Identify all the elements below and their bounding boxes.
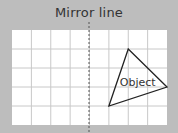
object-label: Object [120, 76, 157, 89]
diagram: Object [0, 0, 178, 133]
